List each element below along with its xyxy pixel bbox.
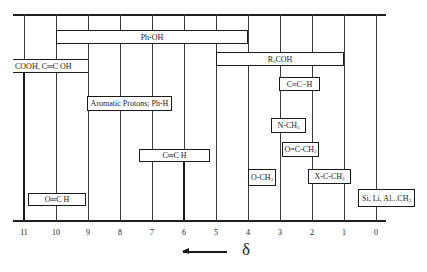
range-methoxy: O-CH3 (248, 169, 276, 186)
tick-label-9: 9 (78, 228, 98, 237)
range-label: C═C H (162, 151, 186, 160)
range-label: Si, Li, Al...CH3 (362, 194, 411, 203)
range-label: Ph-OH (141, 33, 164, 42)
tick-label-10: 10 (46, 228, 66, 237)
range-metal-methyl: Si, Li, Al...CH3 (358, 189, 415, 207)
range-n-methyl: N-CH3 (271, 118, 306, 133)
tick-label-6: 6 (174, 228, 194, 237)
delta-axis-label: δ (242, 240, 250, 260)
range-label: O═C H (45, 195, 70, 204)
range-label: COOH, C═C OH (15, 62, 72, 71)
range-label: R3COH (268, 55, 293, 64)
gridline-9 (88, 15, 89, 221)
tick-label-8: 8 (110, 228, 130, 237)
gridline-7 (152, 15, 153, 221)
gridline-2 (312, 15, 313, 221)
range-phenol-oh: Ph-OH (56, 30, 248, 44)
tick-label-11: 11 (14, 228, 34, 237)
tick-label-7: 7 (142, 228, 162, 237)
range-label: Aromatic Protons; Ph-H (91, 99, 169, 108)
range-acetyl-methyl: O=C-CH3 (282, 142, 319, 157)
arrow-left-icon (183, 251, 227, 253)
range-label: X-C-CH3 (314, 172, 344, 181)
range-bar-cooh (23, 72, 25, 221)
gridline-8 (120, 15, 121, 221)
range-bar-alkene (183, 161, 185, 221)
range-tertiary-alcohol: R3COH (216, 52, 344, 66)
axis-baseline (13, 220, 386, 222)
range-label: O-CH3 (251, 173, 273, 182)
gridline-1 (344, 15, 345, 221)
gridline-10 (56, 15, 57, 221)
range-label: N-CH3 (277, 121, 299, 130)
range-halo-methyl: X-C-CH3 (308, 169, 351, 184)
range-carboxylic-acid: COOH, C═C OH (13, 59, 88, 73)
range-label: C≡C−H (287, 80, 312, 89)
tick-label-4: 4 (238, 228, 258, 237)
range-aldehyde-h: O═C H (28, 193, 86, 206)
tick-label-3: 3 (270, 228, 290, 237)
range-alkyne-h: C≡C−H (279, 77, 320, 91)
gridline-4 (248, 15, 249, 221)
tick-label-5: 5 (206, 228, 226, 237)
range-alkene-h: C═C H (139, 149, 210, 162)
range-label: O=C-CH3 (285, 145, 317, 154)
tick-label-2: 2 (302, 228, 322, 237)
tick-label-0: 0 (366, 228, 386, 237)
range-aromatic-protons: Aromatic Protons; Ph-H (87, 96, 172, 111)
tick-label-1: 1 (334, 228, 354, 237)
top-border-line (13, 14, 386, 16)
gridline-5 (216, 15, 217, 221)
